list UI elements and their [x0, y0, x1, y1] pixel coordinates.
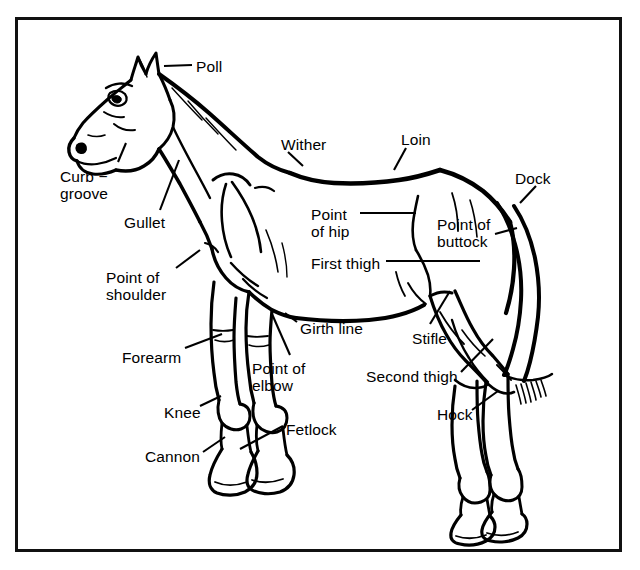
leader-poll: [164, 65, 192, 66]
label-forearm: Forearm: [122, 349, 181, 366]
label-curb-groove: Curb − groove: [60, 168, 108, 202]
label-cannon: Cannon: [145, 448, 200, 465]
leader-wither: [288, 152, 303, 166]
label-first-thigh: First thigh: [311, 255, 380, 272]
horse-anatomy-diagram-page: Poll Wither Loin Dock Curb − groove Gull…: [0, 0, 640, 570]
label-knee: Knee: [164, 404, 201, 421]
label-stifle: Stifle: [412, 330, 447, 347]
label-dock: Dock: [515, 170, 551, 187]
label-wither: Wither: [281, 136, 326, 153]
leader-point-of-elbow: [272, 314, 290, 355]
leader-dock: [520, 186, 536, 203]
label-point-of-shoulder: Point of shoulder: [106, 269, 166, 303]
label-second-thigh: Second thigh: [366, 368, 458, 385]
leader-point-of-shoulder: [176, 250, 200, 268]
leader-loin: [394, 148, 406, 170]
label-point-of-elbow: Point of elbow: [252, 360, 305, 394]
horse-illustration: [0, 0, 640, 570]
label-point-of-hip: Point of hip: [311, 206, 350, 240]
label-hock: Hock: [437, 406, 473, 423]
label-gullet: Gullet: [124, 214, 165, 231]
label-poll: Poll: [196, 58, 222, 75]
label-fetlock: Fetlock: [286, 421, 337, 438]
leader-curb-groove: [118, 143, 126, 162]
label-loin: Loin: [401, 131, 431, 148]
label-point-of-buttock: Point of buttock: [437, 216, 490, 250]
leader-second-thigh: [461, 339, 493, 372]
label-girth-line: Girth line: [300, 320, 363, 337]
